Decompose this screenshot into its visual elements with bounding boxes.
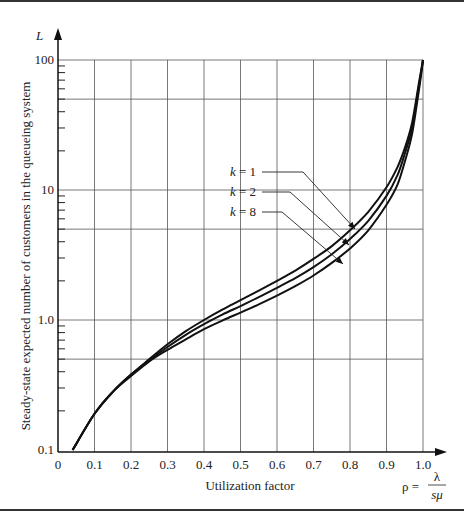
y-minor-ticks bbox=[58, 66, 65, 411]
y-tick-label: 100 bbox=[35, 52, 55, 67]
y-tick-label: 1.0 bbox=[38, 312, 54, 327]
y-axis-title: Steady-state expected number of customer… bbox=[18, 82, 33, 431]
x-tick-label: 0.3 bbox=[159, 457, 175, 472]
x-tick-label: 0.5 bbox=[232, 457, 248, 472]
legend-label-k-2: k = 2 bbox=[230, 184, 256, 199]
chart-canvas: 00.10.20.30.40.50.60.70.80.91.0 0.11.010… bbox=[0, 0, 464, 519]
rho-formula-denominator: sμ bbox=[431, 487, 443, 502]
legend-label-k-8: k = 8 bbox=[230, 204, 256, 219]
rho-formula: ρ = λ sμ bbox=[402, 469, 446, 502]
curve-k-2 bbox=[73, 60, 423, 450]
rho-formula-numerator: λ bbox=[434, 469, 441, 484]
x-tick-label: 0.6 bbox=[269, 457, 286, 472]
x-tick-label: 0.9 bbox=[378, 457, 394, 472]
y-axis-symbol: L bbox=[35, 28, 43, 43]
x-tick-label: 1.0 bbox=[415, 457, 431, 472]
x-tick-label: 0.2 bbox=[123, 457, 139, 472]
x-axis-title: Utilization factor bbox=[205, 478, 295, 493]
y-tick-label: 10 bbox=[41, 182, 54, 197]
x-tick-label: 0.7 bbox=[305, 457, 322, 472]
x-tick-label: 0.4 bbox=[196, 457, 213, 472]
legend-leader-line bbox=[262, 192, 349, 245]
x-tick-labels: 00.10.20.30.40.50.60.70.80.91.0 bbox=[55, 457, 431, 472]
curve-k-1 bbox=[73, 60, 423, 450]
x-axis-arrow-icon bbox=[435, 448, 447, 456]
legend-leader-line bbox=[262, 172, 355, 229]
rho-formula-lhs: ρ = bbox=[402, 479, 419, 494]
y-tick-labels: 0.11.010100 bbox=[35, 52, 55, 457]
x-tick-label: 0.1 bbox=[86, 457, 102, 472]
x-tick-label: 0.8 bbox=[342, 457, 358, 472]
legend: k = 1k = 2k = 8 bbox=[230, 164, 355, 264]
y-axis-arrow-icon bbox=[54, 28, 62, 40]
y-tick-label: 0.1 bbox=[38, 442, 54, 457]
legend-label-k-1: k = 1 bbox=[230, 164, 256, 179]
series-curves bbox=[73, 60, 423, 450]
x-tick-label: 0 bbox=[55, 457, 62, 472]
curve-k-8 bbox=[73, 60, 423, 450]
